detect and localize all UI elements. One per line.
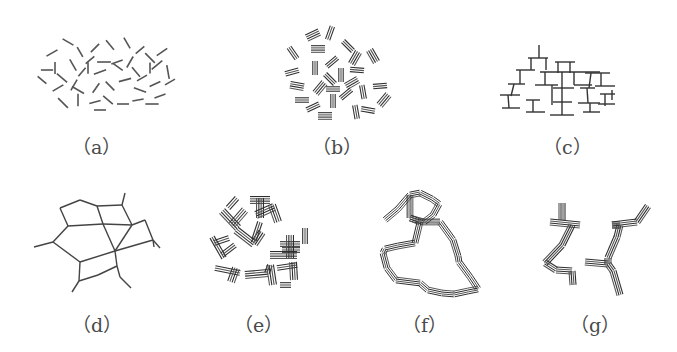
panel-g [0,0,677,352]
panel-label-f: （f） [402,310,447,337]
zigzag-bundles-graphic [0,0,677,352]
panel-label-b: （b） [312,132,362,159]
panel-label-e: （e） [234,310,283,337]
panel-label-c: （c） [543,132,592,159]
panel-label-g: （g） [570,310,620,337]
panel-label-a: （a） [72,132,121,159]
panel-label-d: （d） [72,310,122,337]
